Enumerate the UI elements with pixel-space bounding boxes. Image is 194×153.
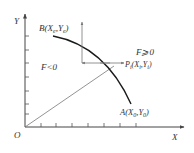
y-axis-label: Y bbox=[14, 16, 20, 26]
circle-interpolation-diagram: Y X O B(Xe,Ye) F<0 F⩾0 Pi(Xi,Yi) A(X0,Y0… bbox=[0, 0, 194, 153]
point-b-label: B(Xe,Ye) bbox=[39, 23, 69, 34]
origin-label: O bbox=[14, 130, 21, 140]
region-outside-label: F⩾0 bbox=[135, 47, 154, 57]
region-inside-label: F<0 bbox=[40, 62, 58, 72]
radius-line bbox=[25, 66, 114, 127]
point-p-label: Pi(Xi,Yi) bbox=[124, 60, 152, 70]
x-axis-label: X bbox=[171, 132, 178, 142]
point-a-label: A(X0,Y0) bbox=[119, 107, 149, 118]
x-axis-ticks bbox=[41, 123, 136, 127]
arc-curve bbox=[53, 36, 131, 104]
y-axis-ticks bbox=[25, 36, 29, 114]
